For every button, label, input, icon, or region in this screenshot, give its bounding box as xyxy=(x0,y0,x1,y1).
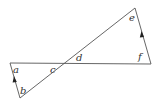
angle-diagram: a b c d e f xyxy=(0,0,154,103)
parallel-arrow-icon-right xyxy=(140,31,144,38)
label-f: f xyxy=(137,51,144,62)
label-b: b xyxy=(20,85,26,96)
label-e: e xyxy=(129,12,135,23)
parallel-arrow-icon-left xyxy=(13,76,17,83)
label-c: c xyxy=(50,64,56,75)
horizontal-line xyxy=(10,63,151,64)
label-a: a xyxy=(13,64,19,75)
label-d: d xyxy=(76,52,82,63)
